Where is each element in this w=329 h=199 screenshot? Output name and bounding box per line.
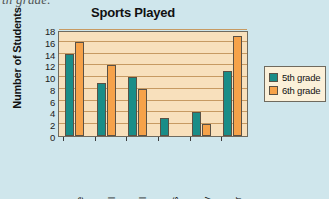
gridline xyxy=(59,29,247,30)
x-axis-tick-label: Tennis xyxy=(169,197,180,199)
x-axis-tick-label: Basketball xyxy=(137,197,148,199)
x-axis-tick-label: Hockey xyxy=(201,197,212,199)
x-axis-tick-labels: LacrosseFootballBasketballTennisHockeySo… xyxy=(58,141,248,199)
y-axis-title: Number of Students xyxy=(11,3,23,113)
chart-page: th grade. Sports Played Number of Studen… xyxy=(0,0,329,199)
y-axis-tick-label: 2 xyxy=(26,120,55,131)
x-axis-tick-label: Football xyxy=(106,197,117,199)
bar xyxy=(223,71,232,136)
legend: 5th grade6th grade xyxy=(264,66,326,102)
legend-swatch-icon xyxy=(269,86,278,95)
y-axis-tick-label: 12 xyxy=(26,61,55,72)
y-axis-tick-label: 14 xyxy=(26,49,55,60)
y-axis-tick-label: 8 xyxy=(26,84,55,95)
bar xyxy=(128,77,137,136)
legend-item-label: 5th grade xyxy=(282,72,320,83)
bars-layer xyxy=(59,32,247,136)
bar xyxy=(233,36,242,136)
y-axis-tick-labels: 024681012141618 xyxy=(26,27,55,141)
y-axis-tick-label: 0 xyxy=(26,132,55,143)
bar xyxy=(138,89,147,136)
bar xyxy=(65,54,74,136)
y-axis-tick-label: 6 xyxy=(26,96,55,107)
bar xyxy=(107,65,116,136)
bar xyxy=(160,118,169,136)
legend-item-label: 6th grade xyxy=(282,85,320,96)
chart-title: Sports Played xyxy=(0,5,266,20)
y-axis-tick-label: 10 xyxy=(26,73,55,84)
y-axis-tick-label: 4 xyxy=(26,108,55,119)
bar xyxy=(192,112,201,136)
legend-swatch-icon xyxy=(269,73,278,82)
x-axis-tick-label: Soccer xyxy=(232,197,243,199)
legend-item[interactable]: 6th grade xyxy=(269,84,320,97)
bar xyxy=(97,83,106,136)
y-axis-tick-label: 18 xyxy=(26,26,55,37)
legend-item[interactable]: 5th grade xyxy=(269,71,320,84)
bar xyxy=(75,42,84,136)
x-axis-tick-label: Lacrosse xyxy=(74,197,85,199)
y-axis-tick-label: 16 xyxy=(26,37,55,48)
bar xyxy=(202,124,211,136)
plot-area xyxy=(58,31,248,137)
